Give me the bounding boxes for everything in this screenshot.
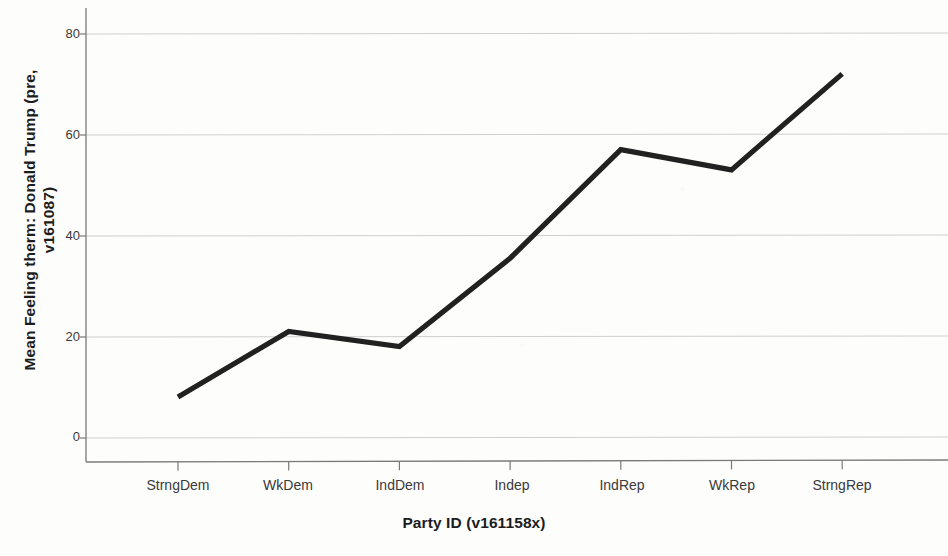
gridline-40 (86, 235, 948, 236)
gridline-60 (86, 134, 948, 135)
x-axis-line (86, 460, 948, 462)
y-axis-ticks (80, 34, 86, 438)
gridline-20 (86, 336, 948, 337)
line-chart-plot (0, 0, 948, 556)
chart-page: Mean Feeling therm: Donald Trump (pre, v… (0, 0, 948, 556)
gridline-0 (86, 437, 948, 438)
gridline-80 (86, 33, 948, 34)
